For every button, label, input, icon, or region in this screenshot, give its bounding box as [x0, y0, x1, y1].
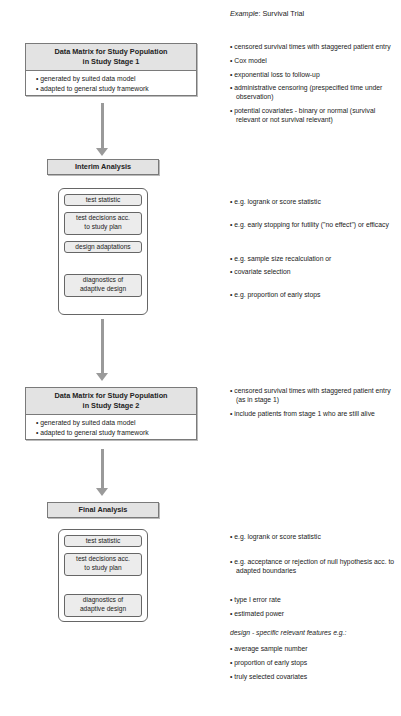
stage2-title-line1: Data Matrix for Study Population: [28, 391, 194, 401]
note-item: • potential covariates - binary or norma…: [230, 107, 395, 125]
arrow-down-icon: [96, 488, 108, 496]
interim-step-test-statistic: test statistic: [64, 194, 142, 206]
example-title: : Survival Trial: [258, 9, 304, 18]
example-label: Example: [230, 9, 258, 18]
interim-analysis-header: Interim Analysis: [47, 159, 159, 175]
interim-step-diagnostics: diagnostics of adaptive design: [64, 274, 142, 297]
stage2-bullet: • generated by suited data model: [26, 418, 196, 428]
note-item: • e.g. sample size recalculation or: [230, 255, 401, 264]
note-item: • e.g. logrank or score statistic: [230, 533, 401, 542]
note-item: • e.g. early stopping for futility ("no …: [230, 221, 401, 230]
note-item: • censored survival times with staggered…: [230, 43, 395, 52]
feature-item: • truly selected covariates: [230, 673, 401, 682]
final-step-test-decisions-label: test decisions acc. to study plan: [65, 555, 141, 572]
flow-arrow-line: [101, 319, 104, 373]
stage1-bullet: • adapted to general study framework: [26, 84, 196, 94]
note-item: • e.g. proportion of early stops: [230, 291, 401, 300]
arrow-down-icon: [96, 148, 108, 156]
final-steps-container: test statistic test decisions acc. to st…: [58, 529, 148, 622]
final-analysis-header: Final Analysis: [47, 502, 159, 518]
stage1-notes: • censored survival times with staggered…: [230, 43, 395, 125]
note-item: • type I error rate: [230, 596, 401, 605]
note-item: • e.g. logrank or score statistic: [230, 198, 401, 207]
stage2-header: Data Matrix for Study Population in Stud…: [26, 388, 196, 415]
note-item: • e.g. acceptance or rejection of null h…: [230, 558, 401, 576]
stage1-title-line2: in Study Stage 1: [28, 57, 194, 67]
example-header: Example: Survival Trial: [230, 9, 304, 18]
stage2-notes: • censored survival times with staggered…: [230, 387, 395, 418]
note-item: • Cox model: [230, 57, 395, 66]
stage2-data-matrix-box: Data Matrix for Study Population in Stud…: [25, 387, 197, 440]
note-item: • censored survival times with staggered…: [230, 387, 395, 405]
final-step-diagnostics-label: diagnostics of adaptive design: [65, 596, 141, 613]
feature-item: • average sample number: [230, 645, 401, 654]
final-step-test-decisions: test decisions acc. to study plan: [64, 553, 142, 576]
stage1-data-matrix-box: Data Matrix for Study Population in Stud…: [25, 43, 197, 96]
final-step-test-statistic: test statistic: [64, 535, 142, 547]
feature-item: • proportion of early stops: [230, 659, 401, 668]
note-item: • covariate selection: [230, 268, 401, 277]
final-step-diagnostics: diagnostics of adaptive design: [64, 594, 142, 617]
interim-step-diagnostics-label: diagnostics of adaptive design: [65, 276, 141, 293]
interim-step-test-decisions-label: test decisions acc. to study plan: [65, 214, 141, 231]
flow-arrow-line: [101, 449, 104, 488]
interim-step-design-adaptations: design adaptations: [64, 241, 142, 253]
stage2-body: • generated by suited data model • adapt…: [26, 415, 196, 439]
note-item: • exponential loss to follow-up: [230, 71, 395, 80]
stage1-title-line1: Data Matrix for Study Population: [28, 47, 194, 57]
interim-steps-container: test statistic test decisions acc. to st…: [58, 188, 148, 315]
stage1-bullet: • generated by suited data model: [26, 74, 196, 84]
interim-step-test-decisions: test decisions acc. to study plan: [64, 212, 142, 235]
stage2-bullet: • adapted to general study framework: [26, 428, 196, 438]
stage2-title-line2: in Study Stage 2: [28, 401, 194, 411]
stage1-header: Data Matrix for Study Population in Stud…: [26, 44, 196, 71]
note-item: • administrative censoring (prespecified…: [230, 84, 395, 102]
note-item: • estimated power: [230, 610, 401, 619]
features-heading: design - specific relevant features e.g.…: [230, 629, 400, 638]
flow-arrow-line: [101, 103, 104, 148]
arrow-down-icon: [96, 373, 108, 381]
stage1-body: • generated by suited data model • adapt…: [26, 71, 196, 95]
note-item: • include patients from stage 1 who are …: [230, 410, 395, 419]
